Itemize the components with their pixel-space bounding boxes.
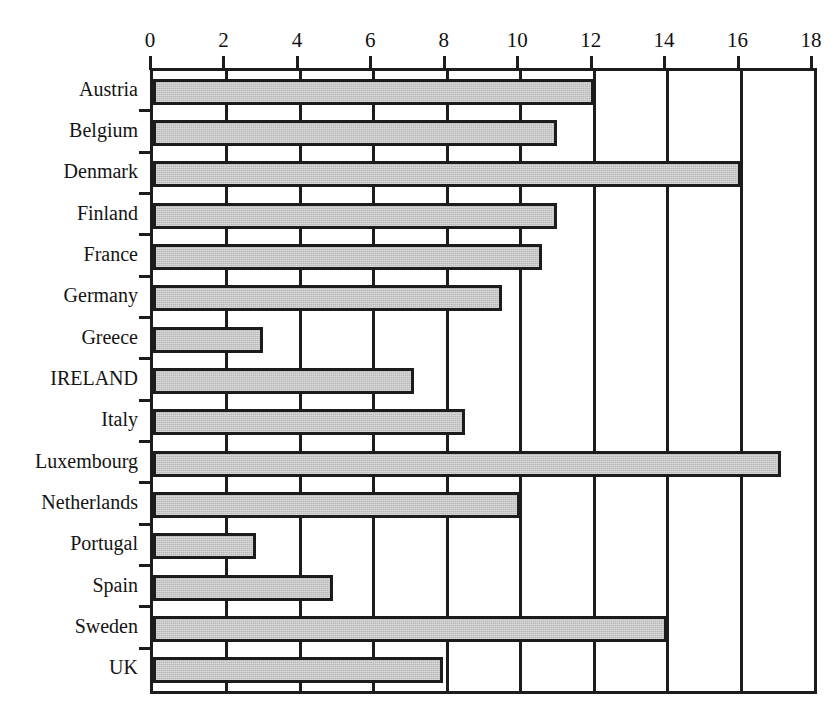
category-label-portugal: Portugal bbox=[70, 532, 138, 554]
category-label-uk: UK bbox=[109, 656, 138, 678]
category-label-italy: Italy bbox=[101, 408, 138, 430]
bar-series bbox=[153, 71, 814, 691]
bar-chart: . 024681012141618 AustriaBelgiumDenmarkF… bbox=[0, 0, 837, 704]
category-label-finland: Finland bbox=[77, 202, 138, 224]
category-label-luxembourg: Luxembourg bbox=[35, 450, 138, 472]
category-label-germany: Germany bbox=[64, 284, 138, 306]
x-tick-label-16: 16 bbox=[727, 28, 748, 52]
bar-portugal bbox=[153, 533, 256, 559]
x-tick-label-2: 2 bbox=[218, 28, 229, 52]
bar-ireland bbox=[153, 368, 414, 394]
category-label-sweden: Sweden bbox=[75, 615, 138, 637]
bar-denmark bbox=[153, 161, 741, 187]
bar-uk bbox=[153, 657, 443, 683]
category-label-spain: Spain bbox=[92, 574, 138, 596]
bar-netherlands bbox=[153, 492, 520, 518]
y-axis-category-labels: AustriaBelgiumDenmarkFinlandFranceGerman… bbox=[0, 68, 148, 688]
category-label-netherlands: Netherlands bbox=[41, 491, 138, 513]
category-label-france: France bbox=[84, 243, 138, 265]
category-label-austria: Austria bbox=[79, 78, 138, 100]
x-tick-label-12: 12 bbox=[580, 28, 601, 52]
category-label-greece: Greece bbox=[81, 326, 138, 348]
plot-area bbox=[150, 68, 817, 694]
bar-germany bbox=[153, 285, 502, 311]
bar-greece bbox=[153, 327, 263, 353]
x-tick-label-4: 4 bbox=[292, 28, 303, 52]
x-tick-label-10: 10 bbox=[507, 28, 528, 52]
x-tick-label-18: 18 bbox=[801, 28, 822, 52]
bar-italy bbox=[153, 409, 465, 435]
x-tick-label-0: 0 bbox=[145, 28, 156, 52]
bar-spain bbox=[153, 575, 333, 601]
x-axis-tick-labels: 024681012141618 bbox=[0, 28, 837, 54]
bar-sweden bbox=[153, 616, 667, 642]
bar-belgium bbox=[153, 120, 557, 146]
x-tick-label-14: 14 bbox=[654, 28, 675, 52]
cropped-title-remnant: . bbox=[150, 0, 580, 1]
bar-finland bbox=[153, 203, 557, 229]
category-label-ireland: IRELAND bbox=[50, 367, 138, 389]
x-tick-label-6: 6 bbox=[365, 28, 376, 52]
category-label-belgium: Belgium bbox=[69, 119, 138, 141]
category-label-denmark: Denmark bbox=[64, 160, 138, 182]
bar-luxembourg bbox=[153, 451, 781, 477]
x-tick-label-8: 8 bbox=[439, 28, 450, 52]
bar-austria bbox=[153, 79, 594, 105]
bar-france bbox=[153, 244, 542, 270]
